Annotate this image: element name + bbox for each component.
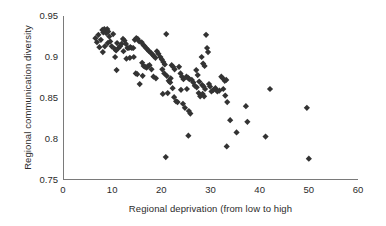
data-point	[267, 86, 273, 92]
data-point	[165, 90, 171, 96]
data-point	[140, 73, 146, 79]
data-point	[205, 49, 211, 55]
data-point	[163, 154, 169, 160]
x-axis-label: Regional deprivation (from low to high	[63, 203, 358, 214]
data-point	[227, 117, 233, 123]
data-point	[160, 91, 166, 97]
y-tick-label: 0.85	[28, 93, 58, 103]
x-tick-label: 10	[100, 184, 124, 195]
x-tick-label: 30	[199, 184, 223, 195]
data-point	[243, 103, 249, 109]
data-point	[195, 72, 201, 78]
data-point-group	[92, 26, 312, 162]
data-point	[244, 119, 250, 125]
data-point	[184, 86, 190, 92]
x-tick-label: 50	[297, 184, 321, 195]
y-tick-label: 0.9	[28, 52, 58, 62]
x-tick-labels: 0102030405060	[63, 184, 363, 198]
plot-area	[63, 16, 358, 180]
data-point	[137, 81, 143, 87]
x-tick-label: 40	[248, 184, 272, 195]
x-tick-label: 20	[149, 184, 173, 195]
data-point	[203, 32, 209, 38]
data-point	[131, 54, 137, 60]
data-point	[304, 105, 310, 111]
data-point	[193, 67, 199, 73]
data-point	[199, 54, 205, 60]
data-point	[224, 143, 230, 149]
scatter-chart-figure: Regional communication diversity 0.750.8…	[0, 0, 386, 226]
data-point	[224, 99, 230, 105]
data-point	[222, 92, 228, 98]
data-point	[185, 133, 191, 139]
data-point	[170, 85, 176, 91]
data-point	[233, 129, 239, 135]
y-tick-labels: 0.750.80.850.90.95	[26, 0, 58, 180]
data-point	[306, 156, 312, 162]
data-point	[163, 31, 169, 37]
y-tick-label: 0.95	[28, 11, 58, 21]
scatter-plot-canvas	[63, 16, 358, 180]
data-point	[113, 67, 119, 73]
y-tick-label: 0.8	[28, 134, 58, 144]
data-point	[112, 54, 118, 60]
data-point	[262, 133, 268, 139]
data-point	[100, 49, 106, 55]
x-tick-label: 0	[51, 184, 75, 195]
x-tick-label: 60	[346, 184, 370, 195]
data-point	[178, 87, 184, 93]
